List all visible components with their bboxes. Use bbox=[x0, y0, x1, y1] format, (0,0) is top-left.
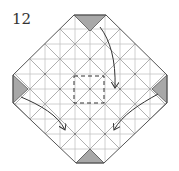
origami-diagram bbox=[0, 0, 179, 171]
